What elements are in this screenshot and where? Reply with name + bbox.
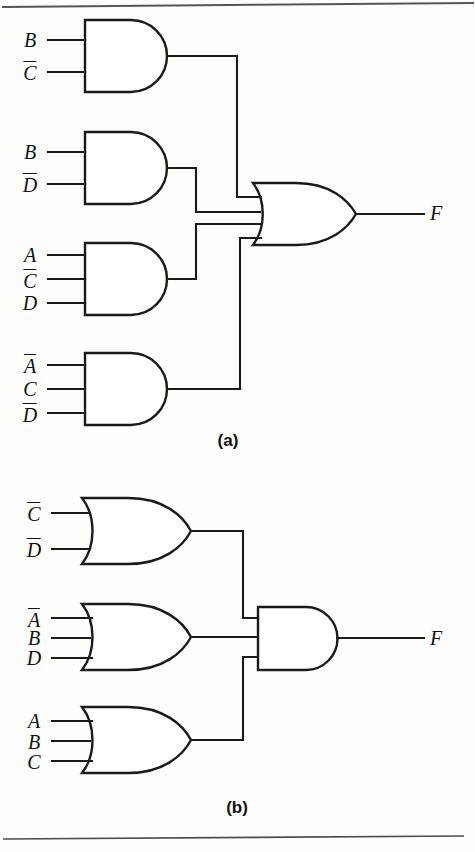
or-gate-3[interactable] xyxy=(52,707,191,773)
input-label-a3-d: D xyxy=(23,293,37,313)
input-label-b1-dbar: D xyxy=(27,538,41,560)
or-gate-2-body xyxy=(82,604,191,670)
input-label-a2-dbar: D xyxy=(23,173,37,195)
input-label-a2-b: B xyxy=(24,142,36,162)
bottom-rule xyxy=(3,836,464,839)
or-gate-1-body xyxy=(82,498,191,564)
circuit-canvas xyxy=(0,0,475,852)
or-gate-2[interactable] xyxy=(52,604,191,670)
input-label-b3-c: C xyxy=(27,752,40,772)
output-label-b-f: F xyxy=(430,627,442,650)
and-gate-output-b-body xyxy=(258,607,338,670)
and-gate-4-body xyxy=(85,353,167,425)
top-rule xyxy=(2,3,474,7)
wire-or1-to-and xyxy=(191,531,258,618)
logic-circuit-figure: B C B D A C D A C D F (a) C D A B D xyxy=(0,0,475,852)
wire-and4-to-or xyxy=(167,238,261,389)
input-label-a3-a: A xyxy=(24,245,36,265)
and-gate-2[interactable] xyxy=(48,132,167,204)
wire-or3-to-and xyxy=(191,657,258,740)
input-label-b2-b: B xyxy=(28,628,40,648)
input-label-a4-c: C xyxy=(23,379,36,399)
and-gate-3-body xyxy=(85,243,167,315)
or-gate-1[interactable] xyxy=(52,498,191,564)
input-label-a4-dbar: D xyxy=(23,403,37,425)
and-gate-4[interactable] xyxy=(48,353,167,425)
and-gate-output-b[interactable] xyxy=(258,607,338,670)
wire-and1-to-or xyxy=(167,56,261,197)
input-label-a3-cbar: C xyxy=(23,269,36,291)
or-gate-output-a-body xyxy=(253,183,356,245)
and-gate-2-body xyxy=(85,132,167,204)
input-label-b1-cbar: C xyxy=(27,502,40,524)
input-label-a4-abar: A xyxy=(24,354,36,376)
input-label-b3-a: A xyxy=(28,711,40,731)
input-label-b2-d: D xyxy=(27,648,41,668)
input-label-a1-b: B xyxy=(24,30,36,50)
and-gate-1-body xyxy=(85,20,167,92)
input-label-b3-b: B xyxy=(28,732,40,752)
panel-b xyxy=(52,498,424,773)
and-gate-1[interactable] xyxy=(48,20,167,92)
and-gate-3[interactable] xyxy=(48,243,167,315)
panel-caption-a: (a) xyxy=(218,431,239,451)
wire-and2-to-or xyxy=(167,168,260,212)
input-label-a1-cbar: C xyxy=(23,61,36,83)
or-gate-3-body xyxy=(82,707,191,773)
or-gate-output-a[interactable] xyxy=(253,183,356,245)
panel-caption-b: (b) xyxy=(226,798,248,818)
panel-a xyxy=(48,20,424,425)
wire-and3-to-or xyxy=(167,224,260,279)
output-label-a-f: F xyxy=(430,202,442,225)
